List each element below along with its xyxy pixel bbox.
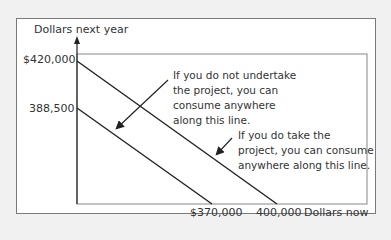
annotation-project: If you do take the project, you can cons… bbox=[238, 128, 374, 173]
arrow-project bbox=[217, 138, 232, 154]
ann2-line: anywhere along this line. bbox=[238, 158, 374, 173]
ann1-line: the project, you can bbox=[173, 83, 296, 98]
y-axis-arrow-icon bbox=[74, 36, 80, 44]
ann2-line: project, you can consume bbox=[238, 143, 374, 158]
y-axis-label: Dollars next year bbox=[34, 23, 128, 37]
ann1-line: consume anywhere bbox=[173, 98, 296, 113]
x-tick-370000: $370,000 bbox=[190, 206, 243, 220]
y-tick-388500: 388,500 bbox=[29, 102, 75, 116]
x-axis-label: Dollars now bbox=[304, 206, 369, 220]
x-tick-400000: 400,000 bbox=[256, 206, 302, 220]
ann2-line: If you do take the bbox=[238, 128, 374, 143]
y-tick-420000: $420,000 bbox=[23, 53, 76, 67]
ann1-line: If you do not undertake bbox=[173, 68, 296, 83]
annotation-no-project: If you do not undertake the project, you… bbox=[173, 68, 296, 128]
ann1-line: along this line. bbox=[173, 113, 296, 128]
